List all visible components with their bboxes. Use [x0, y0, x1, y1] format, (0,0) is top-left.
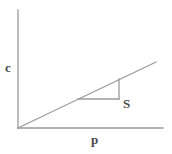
x-axis-label: p [91, 133, 98, 146]
slope-annotation-label: S [123, 97, 130, 110]
y-axis-label: c [5, 61, 11, 74]
linear-relation-line [18, 62, 156, 128]
diagram-canvas [0, 0, 172, 154]
slope-diagram-figure: c p S [0, 0, 172, 154]
